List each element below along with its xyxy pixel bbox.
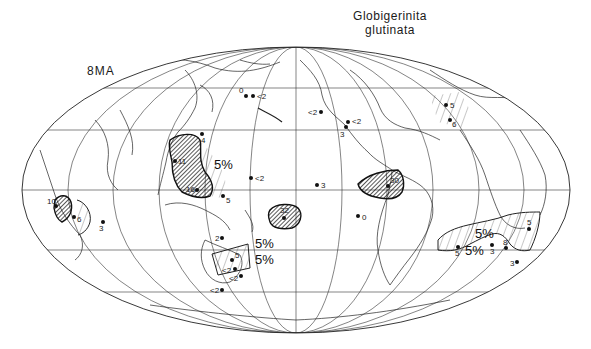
svg-text:<2: <2 [255,174,265,183]
contour-label-5pct: 5% [465,243,484,258]
world-map: 5% 5% 5% 5% 5% <2 0 4 11 <2 16 5 32 3 0 … [0,0,591,349]
svg-text:5: 5 [226,196,231,205]
contour-label-5pct: 5% [214,157,233,172]
svg-text:6: 6 [77,215,82,224]
contour-label-5pct: 5% [475,226,494,241]
contour-label-5pct: 5% [255,236,274,251]
svg-text:30: 30 [390,176,399,185]
contour-label-5pct: 5% [255,252,274,267]
hatched-regions-dense [54,134,404,228]
svg-text:3: 3 [340,130,345,139]
svg-text:<2: <2 [229,274,239,283]
north-atlantic-hatch [430,92,470,128]
svg-text:<2: <2 [257,92,267,101]
svg-text:5: 5 [235,251,240,260]
svg-text:10: 10 [47,197,56,206]
svg-text:6: 6 [452,120,457,129]
svg-text:2: 2 [215,234,220,243]
svg-text:4: 4 [201,136,206,145]
svg-text:8: 8 [503,238,508,247]
svg-text:3: 3 [510,259,515,268]
svg-text:<2: <2 [210,286,220,295]
svg-text:<2: <2 [352,117,362,126]
svg-text:5: 5 [455,249,460,258]
svg-text:<2: <2 [308,108,318,117]
coastlines [40,59,555,320]
svg-text:32: 32 [280,206,289,215]
svg-text:0: 0 [362,213,367,222]
svg-text:16: 16 [186,185,195,194]
svg-text:5: 5 [527,218,532,227]
svg-text:0: 0 [239,86,244,95]
svg-text:3: 3 [321,181,326,190]
indian-ocean-west-hatch [54,196,72,222]
svg-text:3: 3 [99,224,104,233]
graticule [0,47,591,333]
svg-text:5: 5 [450,101,455,110]
svg-text:3: 3 [490,247,495,256]
svg-text:11: 11 [178,157,187,166]
